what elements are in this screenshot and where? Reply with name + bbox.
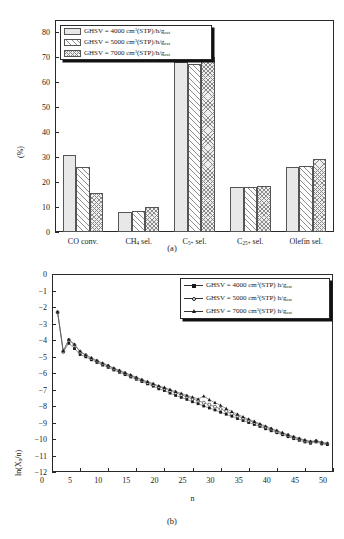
legend-label-a: GHSV = 7000 cm3(STP)/h/gcat — [84, 49, 170, 57]
bar-crosshatch — [201, 57, 215, 232]
panel-b-caption: (b) — [0, 516, 344, 526]
data-point-marker — [208, 398, 211, 401]
bar-diagonal — [76, 167, 90, 232]
y-tick-mark-a — [55, 57, 59, 58]
bar-dotted — [118, 212, 132, 232]
legend-marker — [192, 309, 196, 313]
y-tick-label-a: 20 — [24, 178, 50, 187]
panel-a-caption: (a) — [0, 243, 344, 253]
data-point-marker — [202, 394, 205, 397]
bar-crosshatch — [145, 207, 159, 232]
y-tick-mark-a — [55, 157, 59, 158]
data-point-marker — [213, 405, 216, 408]
data-point-marker — [208, 407, 211, 410]
bar-crosshatch — [257, 186, 271, 232]
y-tick-mark-a — [55, 182, 59, 183]
legend-swatch-crosshatch — [64, 50, 81, 57]
data-point-marker — [197, 402, 200, 405]
y-tick-label-a: 40 — [24, 128, 50, 137]
data-point-marker — [202, 401, 205, 404]
y-tick-mark-a — [55, 32, 59, 33]
y-tick-label-a: 0 — [24, 228, 50, 237]
legend-label-b: GHSV = 7000 cm3(STP) h/gcat — [206, 307, 292, 315]
bar-crosshatch — [313, 159, 327, 232]
legend-item-b: GHSV = 5000 cm3(STP) h/gcat — [181, 292, 329, 305]
line-path — [58, 312, 328, 443]
bar-dotted — [63, 155, 77, 232]
legend-label-b: GHSV = 4000 cm3(STP) h/gcat — [206, 281, 292, 289]
bar-dotted — [230, 187, 244, 232]
y-tick-label-a: 80 — [24, 28, 50, 37]
y-tick-label-a: 50 — [24, 103, 50, 112]
data-point-marker — [191, 400, 194, 403]
data-point-marker — [225, 407, 228, 410]
bar-diagonal — [244, 187, 258, 232]
data-point-marker — [214, 409, 217, 412]
legend-item-a: GHSV = 4000 cm3(STP)/h/gcat — [61, 26, 211, 37]
data-point-marker — [225, 410, 228, 413]
line-path — [58, 312, 328, 444]
legend-marker — [192, 297, 196, 301]
data-point-marker — [213, 401, 216, 404]
y-tick-mark-a — [55, 107, 59, 108]
bar-dotted — [286, 167, 300, 232]
y-tick-label-a: 60 — [24, 78, 50, 87]
legend-item-b: GHSV = 4000 cm3(STP) h/gcat — [181, 279, 329, 292]
bar-diagonal — [188, 64, 202, 232]
data-point-marker — [208, 403, 211, 406]
legend-marker — [192, 284, 196, 288]
bar-diagonal — [299, 166, 313, 232]
bar-chart-panel-a: (%) 01020304050607080 CO conv.CH4 sel.C5… — [0, 8, 344, 258]
x-axis-label-b: n — [52, 494, 333, 503]
y-tick-label-a: 70 — [24, 53, 50, 62]
data-point-marker — [219, 407, 222, 410]
legend-swatch-dotted — [64, 28, 81, 35]
y-tick-label-a: 30 — [24, 153, 50, 162]
data-point-marker — [225, 413, 228, 416]
y-tick-mark-a — [55, 132, 59, 133]
legend-a: GHSV = 4000 cm3(STP)/h/gcatGHSV = 5000 c… — [60, 25, 212, 60]
legend-swatch-diagonal — [64, 39, 81, 46]
legend-item-a: GHSV = 5000 cm3(STP)/h/gcat — [61, 37, 211, 48]
legend-label-a: GHSV = 4000 cm3(STP)/h/gcat — [84, 27, 170, 35]
y-tick-mark-a — [55, 232, 59, 233]
bar-diagonal — [132, 211, 146, 232]
y-tick-label-a: 10 — [24, 203, 50, 212]
data-point-marker — [219, 411, 222, 414]
legend-item-b: GHSV = 7000 cm3(STP) h/gcat — [181, 305, 329, 318]
legend-label-b: GHSV = 5000 cm3(STP) h/gcat — [206, 294, 292, 302]
data-point-marker — [202, 405, 205, 408]
legend-line-open-circle — [184, 295, 203, 302]
figure-container: (%) 01020304050607080 CO conv.CH4 sel.C5… — [0, 0, 344, 539]
bar-dotted — [174, 62, 188, 232]
legend-line-filled-square — [184, 282, 203, 289]
y-tick-mark-a — [55, 82, 59, 83]
data-point-marker — [230, 410, 233, 413]
data-point-marker — [73, 347, 76, 350]
bar-crosshatch — [90, 193, 104, 232]
legend-b: GHSV = 4000 cm3(STP) h/gcatGHSV = 5000 c… — [180, 278, 330, 319]
legend-label-a: GHSV = 5000 cm3(STP)/h/gcat — [84, 38, 170, 46]
line-chart-panel-b: ln(Xn/n) 0−1−2−3−4−5−6−7−8−9−10−11−12 05… — [0, 266, 344, 539]
y-tick-mark-a — [55, 207, 59, 208]
legend-line-filled-triangle — [184, 308, 203, 315]
legend-item-a: GHSV = 7000 cm3(STP)/h/gcat — [61, 48, 211, 59]
line-path — [58, 312, 328, 443]
